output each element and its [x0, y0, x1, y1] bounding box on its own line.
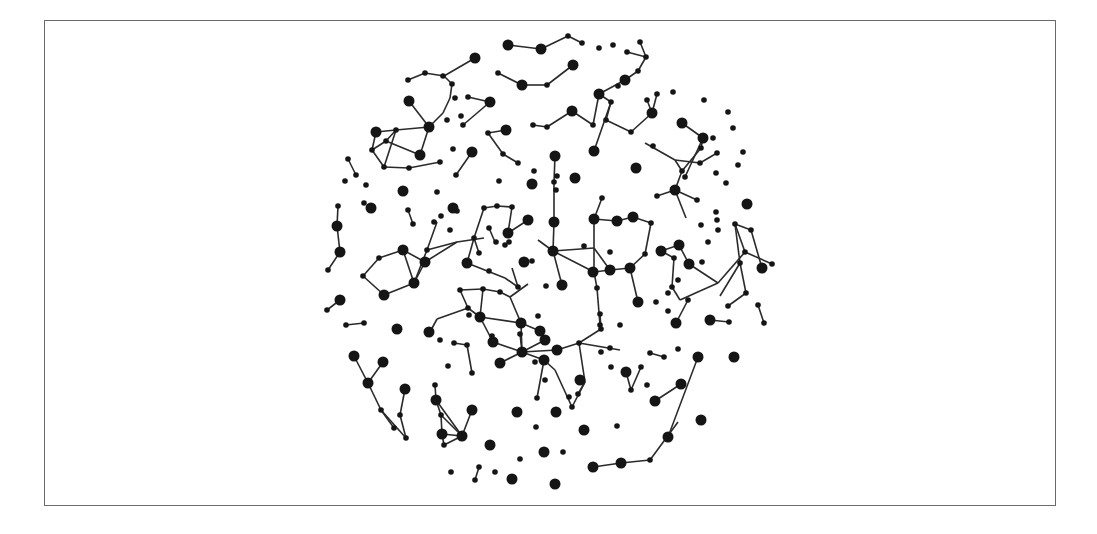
graph-node-small	[617, 322, 623, 328]
graph-node-small	[466, 312, 472, 318]
graph-node-small	[675, 277, 681, 283]
graph-node-small	[476, 250, 482, 256]
graph-node-large	[488, 337, 499, 348]
graph-node-small	[743, 290, 749, 296]
graph-node-large	[567, 106, 578, 117]
graph-node-small	[607, 249, 613, 255]
graph-edge	[631, 367, 641, 390]
graph-node-small	[565, 33, 571, 39]
graph-node-large	[349, 351, 360, 362]
graph-node-large	[588, 462, 599, 473]
graph-node-large	[548, 246, 559, 257]
graph-node-large	[379, 290, 390, 301]
graph-node-small	[497, 289, 503, 295]
graph-node-small	[566, 394, 572, 400]
graph-node-small	[679, 168, 685, 174]
graph-node-large	[575, 375, 586, 386]
graph-node-small	[697, 160, 703, 166]
graph-node-small	[476, 464, 482, 470]
graph-node-small	[643, 54, 649, 60]
graph-node-large	[647, 108, 658, 119]
graph-node-small	[342, 178, 348, 184]
graph-node-small	[685, 297, 691, 303]
graph-node-small	[661, 354, 667, 360]
graph-node-large	[371, 127, 382, 138]
graph-node-large	[540, 335, 551, 346]
graph-node-small	[654, 193, 660, 199]
graph-node-small	[440, 73, 446, 79]
graph-node-small	[325, 267, 331, 273]
graph-node-small	[705, 239, 711, 245]
graph-node-small	[449, 81, 455, 87]
graph-edge	[740, 263, 746, 293]
graph-node-large	[551, 407, 562, 418]
graph-node-small	[405, 207, 411, 213]
graph-node-small	[361, 320, 367, 326]
graph-edge	[758, 305, 764, 323]
graph-node-small	[391, 425, 397, 431]
graph-node-small	[517, 456, 523, 462]
graph-node-small	[486, 225, 492, 231]
graph-node-small	[714, 150, 720, 156]
graph-node-small	[647, 457, 653, 463]
graph-node-small	[465, 305, 471, 311]
graph-node-small	[465, 94, 471, 100]
graph-node-large	[503, 40, 514, 51]
graph-node-small	[648, 220, 654, 226]
graph-node-small	[345, 156, 351, 162]
graph-node-small	[531, 168, 537, 174]
graph-node-small	[363, 182, 369, 188]
graph-edge	[488, 133, 503, 154]
graph-edge	[425, 242, 457, 262]
graph-edge	[650, 422, 678, 460]
graph-node-small	[642, 251, 648, 257]
graph-node-small	[553, 187, 559, 193]
graph-node-small	[431, 219, 437, 225]
graph-node-large	[570, 173, 581, 184]
graph-node-small	[607, 345, 613, 351]
graph-node-small	[725, 303, 731, 309]
graph-edge	[363, 258, 379, 276]
graph-node-small	[614, 423, 620, 429]
graph-edge	[437, 308, 468, 319]
graph-node-small	[324, 307, 330, 313]
graph-node-large	[366, 203, 377, 214]
graph-node-small	[637, 39, 643, 45]
graph-node-small	[544, 82, 550, 88]
graph-node-small	[714, 217, 720, 223]
graph-node-small	[472, 477, 478, 483]
graph-edge	[700, 283, 718, 291]
graph-node-large	[462, 258, 473, 269]
graph-node-small	[598, 326, 604, 332]
graph-node-small	[469, 370, 475, 376]
graph-node-small	[410, 221, 416, 227]
graph-node-small	[769, 261, 775, 267]
graph-edge	[474, 208, 484, 238]
graph-edge	[627, 52, 646, 57]
graph-node-large	[612, 216, 623, 227]
graph-node-large	[512, 407, 523, 418]
graph-node-large	[628, 212, 639, 223]
graph-node-large	[579, 425, 590, 436]
graph-edge	[457, 238, 484, 242]
graph-node-small	[493, 239, 499, 245]
graph-node-small	[530, 122, 536, 128]
graph-node-large	[400, 384, 411, 395]
graph-node-small	[509, 204, 515, 210]
graph-node-small	[360, 273, 366, 279]
graph-node-small	[581, 243, 587, 249]
graph-node-small	[361, 200, 367, 206]
graph-node-small	[432, 382, 438, 388]
graph-edge	[668, 357, 698, 437]
graph-edge	[381, 410, 394, 428]
graph-node-small	[422, 70, 428, 76]
graph-node-small	[438, 213, 444, 219]
graph-node-small	[378, 407, 384, 413]
graph-node-small	[434, 189, 440, 195]
graph-node-small	[748, 227, 754, 233]
graph-node-large	[517, 80, 528, 91]
graph-edge	[751, 230, 762, 268]
graph-node-small	[424, 247, 430, 253]
graph-node-small	[403, 435, 409, 441]
graph-node-large	[663, 432, 674, 443]
